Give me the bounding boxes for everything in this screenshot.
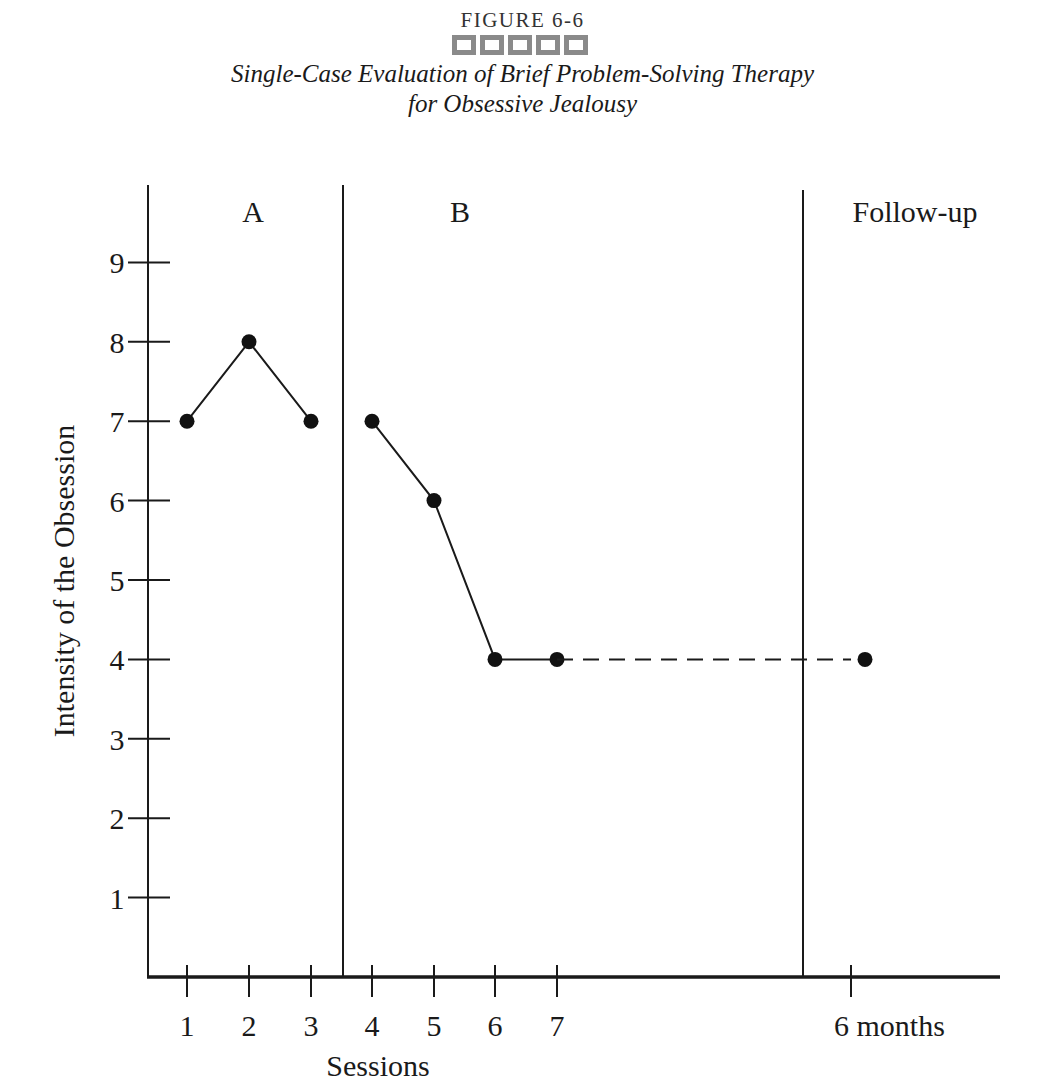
phase-label: Follow-up <box>852 195 977 228</box>
phase-label: A <box>242 195 264 228</box>
chart-plot: 12345678912345676 monthsSessionsIntensit… <box>0 0 1045 1084</box>
y-tick-label: 5 <box>110 564 125 597</box>
data-point-marker <box>427 493 442 508</box>
y-tick-label: 9 <box>110 246 125 279</box>
data-point-marker <box>858 652 873 667</box>
y-axis-label: Intensity of the Obsession <box>47 425 80 737</box>
y-tick-label: 4 <box>110 643 125 676</box>
y-tick-label: 2 <box>110 802 125 835</box>
y-tick-label: 8 <box>110 326 125 359</box>
y-tick-label: 6 <box>110 485 125 518</box>
data-line <box>372 421 557 659</box>
data-line <box>187 342 311 421</box>
x-tick-label: 7 <box>550 1009 565 1042</box>
phase-label: B <box>450 195 470 228</box>
data-point-marker <box>304 414 319 429</box>
data-point-marker <box>365 414 380 429</box>
x-tick-label: 2 <box>242 1009 257 1042</box>
y-tick-label: 1 <box>110 882 125 915</box>
x-tick-label: 1 <box>180 1009 195 1042</box>
y-tick-label: 7 <box>110 405 125 438</box>
x-tick-label: 3 <box>304 1009 319 1042</box>
x-axis-label: Sessions <box>326 1049 429 1082</box>
x-tick-label: 6 <box>488 1009 503 1042</box>
data-point-marker <box>180 414 195 429</box>
x-tick-label: 5 <box>427 1009 442 1042</box>
data-point-marker <box>242 334 257 349</box>
x-tick-label: 4 <box>365 1009 380 1042</box>
x-tick-label: 6 months <box>834 1009 945 1042</box>
y-tick-label: 3 <box>110 723 125 756</box>
data-point-marker <box>488 652 503 667</box>
